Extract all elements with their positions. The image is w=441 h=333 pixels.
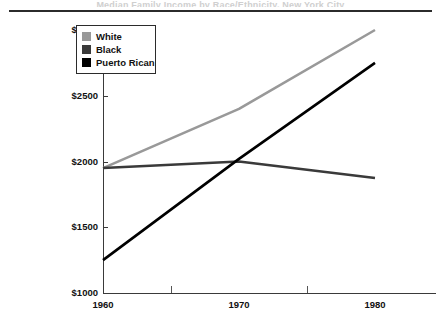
legend-item-label: White: [96, 31, 122, 42]
legend-swatch-icon: [82, 58, 91, 67]
legend-item-label: Black: [96, 44, 121, 55]
chart-legend: WhiteBlackPuerto Rican: [76, 25, 156, 74]
chart-plot-lines: [0, 0, 441, 333]
legend-item-label: Puerto Rican: [96, 57, 155, 68]
legend-item: White: [82, 30, 150, 43]
legend-item: Puerto Rican: [82, 56, 150, 69]
series-line-black: [103, 162, 375, 178]
legend-item: Black: [82, 43, 150, 56]
chart-figure: Median Family Income by Race/Ethnicity, …: [0, 0, 441, 333]
legend-swatch-icon: [82, 32, 91, 41]
legend-swatch-icon: [82, 45, 91, 54]
